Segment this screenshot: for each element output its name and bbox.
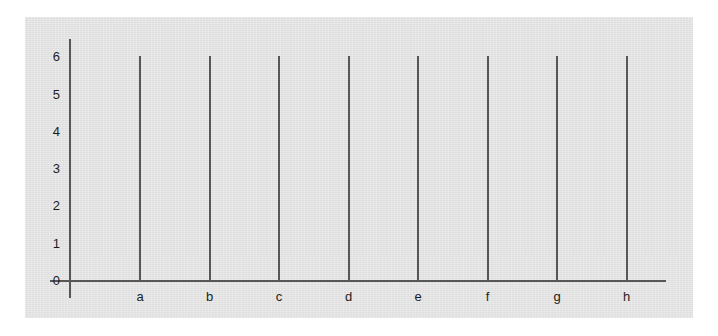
y-tick-label-0: 0 [40,274,60,287]
x-tick-label-f: f [475,290,501,303]
y-tick-label-5: 5 [40,87,60,100]
x-tick-label-h: h [614,290,640,303]
x-tick-label-d: d [336,290,362,303]
bar-b [209,56,211,280]
x-tick-label-a: a [127,290,153,303]
bar-h [626,56,628,280]
panel-texture-overlay [25,17,693,318]
x-tick-label-g: g [544,290,570,303]
y-tick-label-6: 6 [40,50,60,63]
y-tick-label-2: 2 [40,199,60,212]
chart-panel: 6 5 4 3 2 1 0 a b c d e f g h [25,17,693,318]
y-axis-line [69,39,71,298]
y-tick-label-1: 1 [40,236,60,249]
y-tick-label-4: 4 [40,124,60,137]
x-tick-label-e: e [405,290,431,303]
x-tick-label-c: c [266,290,292,303]
x-axis-line [50,280,666,282]
bar-e [417,56,419,280]
bar-c [278,56,280,280]
bar-g [556,56,558,280]
bar-d [348,56,350,280]
bar-a [139,56,141,280]
y-tick-label-3: 3 [40,162,60,175]
bar-f [487,56,489,280]
x-tick-label-b: b [197,290,223,303]
